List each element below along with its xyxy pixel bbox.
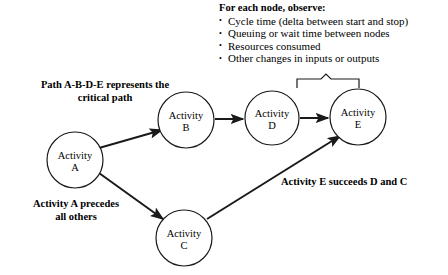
node-activity-a[interactable]: Activity A xyxy=(47,132,103,188)
observe-callout-title: For each node, observe: xyxy=(219,2,447,14)
list-item: Cycle time (delta between start and stop… xyxy=(219,15,447,28)
edge-a-to-b xyxy=(99,130,162,148)
list-item: Other changes in inputs or outputs xyxy=(219,52,447,65)
annotation-activity-e-succeeds: Activity E succeeds D and C xyxy=(281,176,441,189)
node-activity-d[interactable]: Activity D xyxy=(245,91,299,145)
observe-callout: For each node, observe: Cycle time (delt… xyxy=(219,2,447,65)
annotation-activity-a-precedes: Activity A precedes all others xyxy=(10,198,142,223)
node-b-label-line1: Activity xyxy=(169,110,204,121)
node-c-label-line1: Activity xyxy=(167,228,202,239)
observe-callout-list: Cycle time (delta between start and stop… xyxy=(219,15,447,65)
node-c-label-line2: C xyxy=(180,240,187,251)
node-activity-c[interactable]: Activity C xyxy=(156,210,212,266)
bracket-over-d-and-e xyxy=(297,74,359,88)
node-a-label-line2: A xyxy=(71,162,79,173)
list-item: Queuing or wait time between nodes xyxy=(219,27,447,40)
diagram-canvas: Activity A Activity B Activity C Activit… xyxy=(0,0,448,275)
list-item: Resources consumed xyxy=(219,40,447,53)
node-d-label-line1: Activity xyxy=(255,108,290,119)
annotation-critical-path: Path A-B-D-E represents the critical pat… xyxy=(16,79,194,104)
node-a-label-line1: Activity xyxy=(58,150,93,161)
node-e-label-line2: E xyxy=(355,119,361,130)
node-e-label-line1: Activity xyxy=(341,107,376,118)
node-activity-e[interactable]: Activity E xyxy=(330,89,386,145)
node-b-label-line2: B xyxy=(182,122,189,133)
node-d-label-line2: D xyxy=(268,120,276,131)
